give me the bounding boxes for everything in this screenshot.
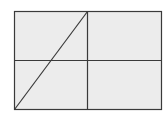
geometry-diagram xyxy=(0,0,168,116)
